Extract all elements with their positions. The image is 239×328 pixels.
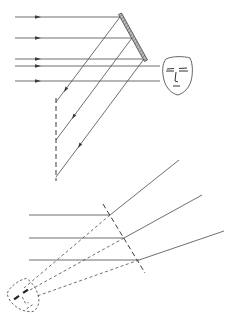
arrow-icon xyxy=(35,57,41,60)
virtual-ray-extensions xyxy=(24,215,139,296)
virtual-ray-2 xyxy=(30,238,124,290)
mirror-dashed xyxy=(103,204,145,273)
virtual-face-icon xyxy=(4,276,46,319)
upper-panel xyxy=(15,13,192,181)
mirror-reflection-diagram xyxy=(0,0,239,328)
mirror-surface xyxy=(119,13,148,62)
outgoing-ray-1 xyxy=(110,160,179,215)
outgoing-ray-2 xyxy=(124,195,202,238)
virtual-ray-3 xyxy=(37,260,139,296)
face-icon xyxy=(163,57,193,95)
arrow-icon xyxy=(35,36,41,39)
outgoing-ray-3 xyxy=(139,231,224,260)
mirror xyxy=(119,13,148,62)
reflected-rays xyxy=(56,17,144,177)
arrow-icon xyxy=(35,64,41,67)
outgoing-rays xyxy=(110,160,224,260)
diagram-svg xyxy=(0,0,239,328)
reflected-ray-3 xyxy=(56,59,144,177)
arrow-icon xyxy=(35,79,41,82)
arrow-icon xyxy=(64,87,68,93)
arrow-icon xyxy=(35,15,41,18)
virtual-ray-1 xyxy=(24,215,110,288)
lower-panel xyxy=(4,160,224,319)
